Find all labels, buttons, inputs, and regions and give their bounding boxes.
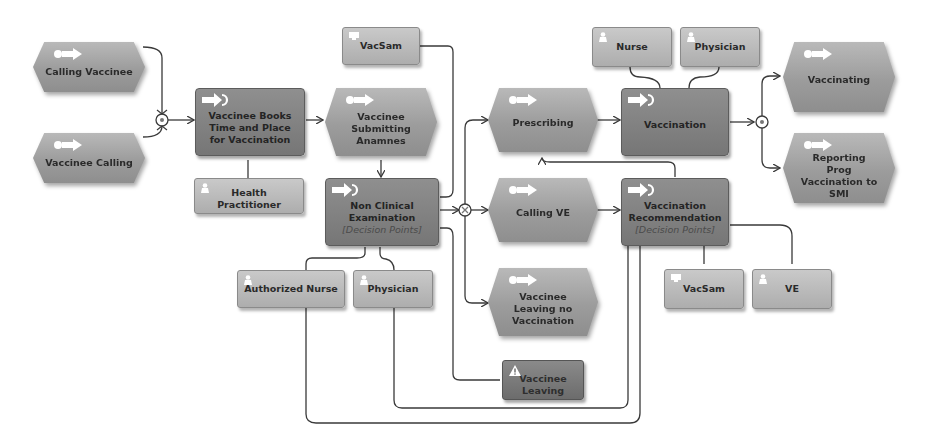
role-label: Physician: [362, 283, 425, 295]
function-label: Vaccination: [638, 119, 712, 131]
person-icon: [687, 32, 695, 42]
event-arrow-icon: [345, 94, 375, 106]
system-icon: [349, 32, 359, 40]
role-label: VE: [779, 283, 805, 295]
function-vaccination-recommendation[interactable]: Vaccination Recommendation [Decision Poi…: [621, 178, 729, 246]
person-icon: [599, 32, 607, 42]
system-icon: [671, 274, 681, 282]
event-arrow-icon: [508, 94, 538, 106]
event-vaccinee-leaving-no-vaccination[interactable]: Vaccinee Leaving no Vaccination: [488, 268, 598, 336]
person-icon: [201, 183, 209, 193]
event-arrow-icon: [53, 139, 83, 151]
role-physician-lower[interactable]: Physician: [353, 270, 433, 308]
event-calling-vaccinee[interactable]: Calling Vaccinee: [33, 42, 145, 92]
function-icon: [332, 183, 362, 197]
function-icon: [628, 183, 658, 197]
assoc-r6-f3: [689, 67, 719, 88]
function-icon: [628, 93, 658, 107]
person-icon: [244, 275, 252, 285]
event-label: Reporting Prog Vaccination to SMI: [793, 152, 885, 200]
system-vacsam-top[interactable]: VacSam: [342, 27, 420, 65]
role-health-practitioner[interactable]: Health Practitioner: [194, 178, 304, 214]
assoc-r5-f3: [630, 67, 660, 88]
function-label: Vaccinee Books Time and Place for Vaccin…: [196, 110, 304, 146]
flow-e1-g1: [143, 47, 162, 114]
system-label: VacSam: [354, 40, 408, 52]
role-nurse[interactable]: Nurse: [592, 27, 672, 67]
event-arrow-icon: [508, 184, 538, 196]
function-non-clinical-examination[interactable]: Non Clinical Examination [Decision Point…: [325, 178, 439, 246]
function-sublabel: [Decision Points]: [635, 224, 715, 236]
assoc-f2-r4: [380, 247, 394, 270]
gateway-g2: [459, 204, 471, 216]
function-vaccinee-books-time[interactable]: Vaccinee Books Time and Place for Vaccin…: [195, 88, 305, 156]
event-vaccinating[interactable]: Vaccinating: [783, 42, 895, 112]
assoc-f2-r3: [306, 247, 365, 270]
flow-f4-e4: [542, 158, 675, 177]
event-label: Calling VE: [510, 207, 576, 219]
warning-icon: [509, 365, 521, 376]
function-label: Vaccination Recommendation: [622, 200, 728, 224]
event-reporting-prog-vaccination[interactable]: Reporting Prog Vaccination to SMI: [783, 133, 895, 203]
person-icon: [759, 274, 767, 284]
flow-g2-e4: [465, 120, 488, 204]
function-label: Non Clinical Examination: [341, 200, 423, 224]
assoc-f4-r8: [730, 225, 792, 264]
event-label: Vaccinee Leaving no Vaccination: [492, 291, 594, 327]
event-arrow-icon: [508, 274, 538, 286]
risk-label: Vaccinee Leaving: [503, 373, 583, 397]
event-label: Prescribing: [507, 117, 580, 129]
event-vaccinee-calling[interactable]: Vaccinee Calling: [33, 133, 145, 183]
flow-g2-e6: [465, 216, 488, 303]
risk-vaccinee-leaving[interactable]: Vaccinee Leaving: [502, 360, 584, 400]
event-calling-ve[interactable]: Calling VE: [488, 178, 598, 242]
person-icon: [360, 275, 368, 285]
function-icon: [202, 93, 232, 107]
flow-g3-e8: [762, 128, 780, 168]
role-physician-upper[interactable]: Physician: [680, 27, 760, 67]
event-arrow-icon: [803, 139, 833, 151]
function-sublabel: [Decision Points]: [342, 224, 422, 236]
event-label: Calling Vaccinee: [39, 66, 138, 78]
role-label: Authorized Nurse: [238, 283, 343, 295]
role-ve[interactable]: VE: [752, 269, 832, 309]
function-vaccination[interactable]: Vaccination: [621, 88, 729, 156]
role-authorized-nurse[interactable]: Authorized Nurse: [237, 270, 345, 308]
role-label: Physician: [689, 41, 752, 53]
event-label: Vaccinee Submitting Anamnes: [340, 111, 422, 147]
flow-g3-e7: [762, 76, 780, 116]
event-vaccinee-submitting-anamnes[interactable]: Vaccinee Submitting Anamnes: [325, 88, 437, 156]
event-prescribing[interactable]: Prescribing: [488, 88, 598, 152]
event-label: Vaccinee Calling: [39, 157, 138, 169]
system-vacsam-lower[interactable]: VacSam: [664, 269, 744, 309]
role-label: Nurse: [610, 41, 654, 53]
role-label: Health Practitioner: [195, 187, 303, 211]
gateway-g3: [756, 116, 768, 128]
event-arrow-icon: [803, 48, 833, 60]
system-label: VacSam: [677, 283, 731, 295]
event-label: Vaccinating: [802, 74, 876, 86]
event-arrow-icon: [53, 48, 83, 60]
